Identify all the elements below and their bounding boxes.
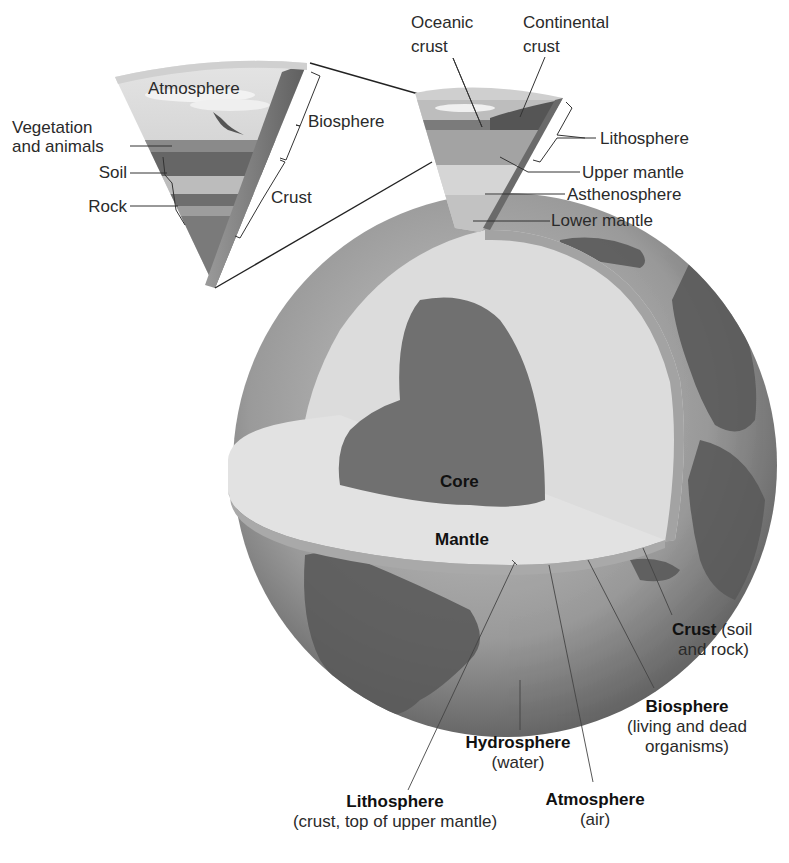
label-atmosphere-desc: (air) — [540, 810, 650, 830]
label-lower-mantle: Lower mantle — [551, 211, 653, 231]
label-biosphere-desc2: organisms) — [612, 737, 762, 757]
label-continental-crust-line1: Continental — [523, 13, 609, 33]
label-crust-desc1: (soil — [721, 620, 752, 639]
label-hydrosphere-title: Hydrosphere — [448, 733, 588, 753]
label-biosphere-inset: Biosphere — [308, 112, 385, 132]
label-crust-desc2: and rock) — [678, 640, 788, 660]
label-group-hydrosphere: Hydrosphere (water) — [448, 733, 588, 773]
label-group-crust: Crust (soil and rock) — [672, 620, 782, 660]
label-crust-title: Crust — [672, 620, 716, 639]
label-atmosphere-inset: Atmosphere — [148, 79, 240, 99]
label-biosphere-desc1: (living and dead — [612, 717, 762, 737]
label-crust-inset: Crust — [271, 188, 312, 208]
label-asthenosphere: Asthenosphere — [567, 185, 681, 205]
label-group-lithosphere: Lithosphere (crust, top of upper mantle) — [270, 792, 520, 832]
label-group-biosphere: Biosphere (living and dead organisms) — [612, 697, 762, 757]
earth-structure-diagram: Atmosphere Vegetation and animals Soil R… — [0, 0, 789, 863]
label-upper-mantle: Upper mantle — [582, 163, 684, 183]
label-continental-crust-line2: crust — [523, 37, 560, 57]
label-group-atmosphere: Atmosphere (air) — [540, 790, 650, 830]
label-soil: Soil — [70, 163, 127, 183]
label-lithosphere-desc: (crust, top of upper mantle) — [270, 812, 520, 832]
label-biosphere-title: Biosphere — [612, 697, 762, 717]
label-hydrosphere-desc: (water) — [448, 753, 588, 773]
label-oceanic-crust-line1: Oceanic — [411, 13, 473, 33]
label-lithosphere-inset: Lithosphere — [600, 129, 689, 149]
label-core: Core — [440, 472, 479, 492]
label-vegetation-line1: Vegetation — [12, 118, 92, 138]
label-rock: Rock — [70, 197, 127, 217]
label-oceanic-crust-line2: crust — [411, 37, 448, 57]
label-atmosphere-title: Atmosphere — [540, 790, 650, 810]
label-vegetation-line2: and animals — [12, 137, 104, 157]
label-lithosphere-title: Lithosphere — [270, 792, 520, 812]
label-mantle: Mantle — [435, 530, 489, 550]
